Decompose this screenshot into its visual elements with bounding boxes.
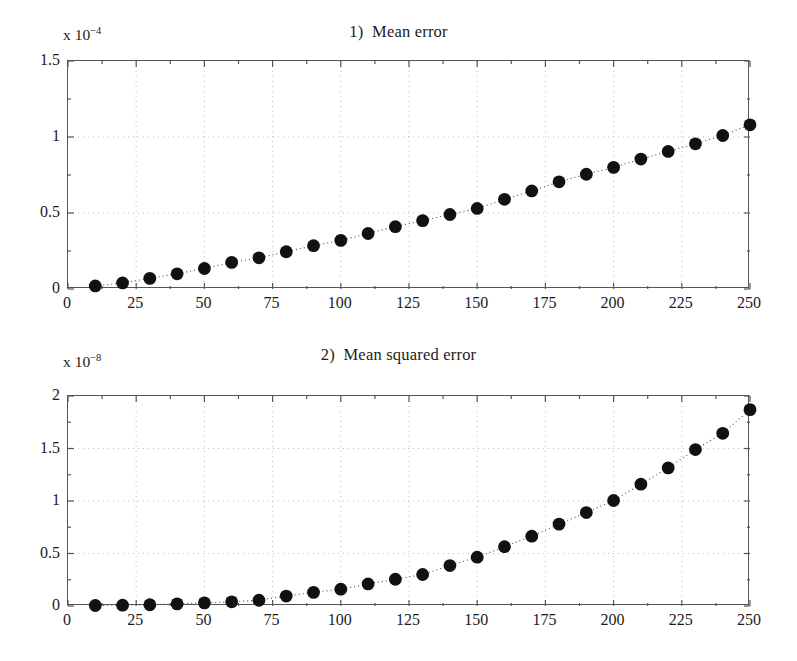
data-point-marker bbox=[89, 280, 102, 293]
data-point-marker bbox=[744, 403, 757, 416]
x-tick-label: 150 bbox=[464, 611, 488, 629]
data-point-marker bbox=[607, 494, 620, 507]
data-point-marker bbox=[416, 568, 429, 581]
chart-2-exponent-value: −8 bbox=[90, 352, 101, 363]
chart-1-y-axis-ticks: 00.511.5 bbox=[4, 60, 60, 288]
y-tick-label: 0.5 bbox=[40, 203, 60, 221]
y-tick-label: 1.5 bbox=[40, 51, 60, 69]
data-point-marker bbox=[444, 208, 457, 221]
data-point-marker bbox=[89, 599, 102, 612]
x-tick-label: 75 bbox=[264, 611, 280, 629]
data-point-marker bbox=[634, 478, 647, 491]
data-point-marker bbox=[607, 161, 620, 174]
y-tick-label: 0 bbox=[52, 596, 60, 614]
data-point-marker bbox=[498, 540, 511, 553]
data-point-marker bbox=[716, 129, 729, 142]
data-point-marker bbox=[580, 506, 593, 519]
data-point-marker bbox=[143, 598, 156, 611]
data-point-marker bbox=[307, 239, 320, 252]
chart-panel-mean-error: 1) Mean error x 10−4 00.511.5 0255075100… bbox=[0, 0, 797, 330]
x-tick-label: 250 bbox=[737, 611, 761, 629]
data-point-marker bbox=[662, 462, 675, 475]
data-point-marker bbox=[553, 175, 566, 188]
data-point-marker bbox=[362, 578, 375, 591]
y-tick-label: 1 bbox=[52, 491, 60, 509]
data-point-marker bbox=[498, 193, 511, 206]
data-point-marker bbox=[525, 530, 538, 543]
data-point-marker bbox=[471, 202, 484, 215]
data-point-marker bbox=[280, 245, 293, 258]
data-point-marker bbox=[662, 145, 675, 158]
chart-1-exponent-value: −4 bbox=[90, 25, 101, 36]
data-point-marker bbox=[716, 427, 729, 440]
x-tick-label: 175 bbox=[532, 611, 556, 629]
x-tick-label: 0 bbox=[63, 611, 71, 629]
chart-panel-mean-squared-error: 2) Mean squared error x 10−8 00.511.52 0… bbox=[0, 331, 797, 661]
chart-2-canvas bbox=[67, 395, 751, 607]
x-tick-label: 225 bbox=[669, 611, 693, 629]
data-point-marker bbox=[634, 153, 647, 166]
x-tick-label: 200 bbox=[601, 294, 625, 312]
data-point-marker bbox=[416, 214, 429, 227]
x-tick-label: 125 bbox=[396, 294, 420, 312]
chart-2-exponent-label: x 10−8 bbox=[63, 353, 101, 371]
data-point-marker bbox=[389, 573, 402, 586]
data-point-marker bbox=[580, 168, 593, 181]
x-tick-label: 200 bbox=[601, 611, 625, 629]
x-tick-label: 75 bbox=[264, 294, 280, 312]
data-point-marker bbox=[171, 598, 184, 611]
chart-2-exponent-prefix: x 10 bbox=[63, 353, 90, 370]
chart-1-title: 1) Mean error bbox=[0, 22, 797, 42]
x-tick-label: 25 bbox=[127, 294, 143, 312]
data-point-marker bbox=[116, 277, 129, 290]
data-point-marker bbox=[689, 137, 702, 150]
figure-root: 1) Mean error x 10−4 00.511.5 0255075100… bbox=[0, 0, 797, 661]
data-point-marker bbox=[225, 256, 238, 269]
chart-1-canvas bbox=[67, 60, 751, 290]
data-point-marker bbox=[253, 251, 266, 264]
data-point-marker bbox=[225, 595, 238, 608]
x-tick-label: 25 bbox=[127, 611, 143, 629]
chart-1-plot-area bbox=[67, 60, 749, 288]
data-point-marker bbox=[525, 185, 538, 198]
x-tick-label: 50 bbox=[195, 294, 211, 312]
data-point-marker bbox=[198, 596, 211, 609]
y-tick-label: 0.5 bbox=[40, 544, 60, 562]
x-tick-label: 225 bbox=[669, 294, 693, 312]
data-point-marker bbox=[334, 234, 347, 247]
data-point-marker bbox=[471, 551, 484, 564]
y-tick-label: 2 bbox=[52, 386, 60, 404]
chart-2-title: 2) Mean squared error bbox=[0, 345, 797, 365]
data-point-marker bbox=[171, 267, 184, 280]
data-point-marker bbox=[307, 586, 320, 599]
data-point-marker bbox=[198, 262, 211, 275]
chart-1-exponent-prefix: x 10 bbox=[63, 26, 90, 43]
x-tick-label: 125 bbox=[396, 611, 420, 629]
data-point-marker bbox=[362, 227, 375, 240]
x-tick-label: 100 bbox=[328, 294, 352, 312]
chart-1-exponent-label: x 10−4 bbox=[63, 26, 101, 44]
data-point-marker bbox=[253, 594, 266, 607]
x-tick-label: 100 bbox=[328, 611, 352, 629]
data-point-marker bbox=[744, 118, 757, 131]
x-tick-label: 175 bbox=[532, 294, 556, 312]
x-tick-label: 0 bbox=[63, 294, 71, 312]
data-point-marker bbox=[689, 443, 702, 456]
x-tick-label: 50 bbox=[195, 611, 211, 629]
data-point-marker bbox=[116, 599, 129, 612]
data-point-marker bbox=[280, 590, 293, 603]
series-connector-line bbox=[95, 125, 750, 286]
data-point-marker bbox=[389, 220, 402, 233]
data-point-marker bbox=[553, 518, 566, 531]
y-tick-label: 0 bbox=[52, 279, 60, 297]
x-tick-label: 150 bbox=[464, 294, 488, 312]
y-tick-label: 1.5 bbox=[40, 439, 60, 457]
chart-2-plot-area bbox=[67, 395, 749, 605]
data-point-marker bbox=[143, 272, 156, 285]
chart-1-x-axis-ticks: 0255075100125150175200225250 bbox=[67, 294, 749, 318]
chart-2-x-axis-ticks: 0255075100125150175200225250 bbox=[67, 611, 749, 635]
data-point-marker bbox=[444, 559, 457, 572]
chart-2-y-axis-ticks: 00.511.52 bbox=[4, 395, 60, 605]
x-tick-label: 250 bbox=[737, 294, 761, 312]
data-point-marker bbox=[334, 583, 347, 596]
